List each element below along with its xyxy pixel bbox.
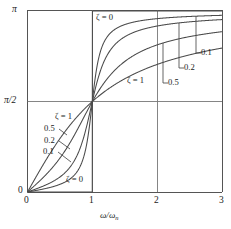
leader-ll-0.1 bbox=[58, 152, 71, 162]
x-tick-three: 3 bbox=[219, 196, 224, 206]
annotation-right-0.2: 0.2 bbox=[184, 63, 195, 72]
annotation-lower-zeta-0: ζ = 0 bbox=[66, 175, 83, 184]
leader-lines bbox=[58, 16, 201, 162]
annotation-right-0.1: 0.1 bbox=[201, 48, 212, 57]
x-tick-zero: 0 bbox=[24, 196, 29, 206]
y-tick-pi: π bbox=[12, 5, 17, 15]
y-tick-pi-half: π/2 bbox=[4, 96, 16, 106]
x-axis-title-subscript: n bbox=[115, 214, 118, 221]
x-axis-title: ω/ωn bbox=[100, 211, 118, 221]
y-tick-zero: 0 bbox=[18, 186, 23, 196]
curve-zeta-0.1 bbox=[28, 15, 223, 192]
annotation-right-0.5: 0.5 bbox=[168, 78, 179, 87]
curve-zeta-0.2 bbox=[28, 20, 223, 192]
annotation-lower-left-zeta-1: ζ = 1 bbox=[55, 112, 72, 121]
annotation-top-zeta-0: ζ = 0 bbox=[96, 13, 113, 22]
chart-canvas bbox=[0, 0, 231, 229]
x-tick-two: 2 bbox=[154, 196, 159, 206]
annotation-lower-left-0.2: 0.2 bbox=[44, 136, 55, 145]
annotation-lower-left-0.1: 0.1 bbox=[43, 147, 54, 156]
annotation-upper-zeta-1: ζ = 1 bbox=[127, 76, 144, 85]
phase-angle-chart: π π/2 0 0 1 2 3 ω/ωn ζ = 0 ζ = 1 0.1 0.2… bbox=[0, 0, 231, 229]
annotation-lower-left-0.5: 0.5 bbox=[44, 124, 55, 133]
x-tick-one: 1 bbox=[89, 196, 94, 206]
